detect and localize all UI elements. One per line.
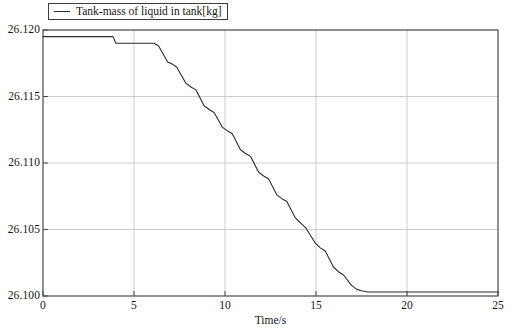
- x-tick-label: 25: [483, 299, 508, 311]
- x-tick-label: 5: [119, 299, 149, 311]
- y-tick-label: 26.120: [0, 23, 40, 35]
- gridlines: [43, 30, 498, 296]
- x-tick-label: 15: [301, 299, 331, 311]
- data-series: [43, 37, 498, 292]
- x-axis-title: Time/s: [211, 314, 331, 326]
- plot-canvas: [0, 0, 508, 329]
- line-swatch-icon: [54, 11, 70, 12]
- chart-legend: Tank-mass of liquid in tank[kg]: [48, 3, 228, 20]
- legend-entry-label: Tank-mass of liquid in tank[kg]: [76, 6, 221, 18]
- x-tick-label: 0: [28, 299, 58, 311]
- y-tick-label: 26.105: [0, 223, 40, 235]
- x-tick-label: 20: [392, 299, 422, 311]
- x-tick-label: 10: [210, 299, 240, 311]
- y-tick-label: 26.110: [0, 156, 40, 168]
- y-tick-label: 26.115: [0, 90, 40, 102]
- chart-figure: 26.10026.10526.11026.11526.120 051015202…: [0, 0, 508, 329]
